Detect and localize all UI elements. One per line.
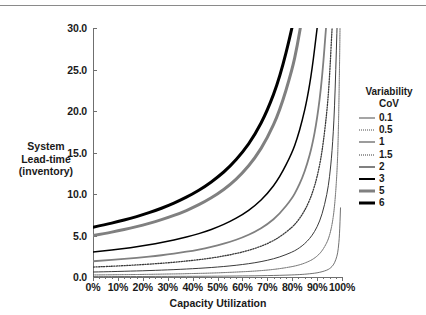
legend-item-cov-5[interactable]: 5	[359, 185, 425, 197]
legend-swatch-icon	[359, 150, 375, 160]
legend-label: 3	[379, 174, 384, 184]
legend-item-cov-0-5[interactable]: 0.5	[359, 124, 425, 136]
x-tick-mark-minor	[330, 277, 331, 279]
legend-swatch-icon	[359, 198, 375, 208]
legend-title-line-1: Variability	[359, 86, 419, 98]
x-tick-mark-minor	[180, 277, 181, 279]
curve-cov-1	[93, 28, 340, 272]
x-tick-mark-minor	[161, 277, 162, 279]
x-axis-tick-labels: 0%10%20%30%40%50%60%70%80%90%100%	[93, 281, 343, 297]
legend-title: Variability CoV	[359, 86, 419, 109]
x-tick-label: 20%	[133, 281, 153, 293]
y-tick-label: 15.0	[41, 148, 87, 158]
legend-item-cov-1[interactable]: 1	[359, 136, 425, 148]
x-tick-mark-minor	[174, 277, 175, 279]
curve-cov-2	[93, 28, 335, 261]
x-tick-mark-minor	[249, 277, 250, 279]
curves-svg	[93, 28, 342, 277]
x-tick-mark-minor	[255, 277, 256, 279]
x-tick-label: 0%	[86, 281, 101, 293]
x-tick-mark-minor	[305, 277, 306, 279]
y-tick-label: 30.0	[41, 23, 87, 33]
x-tick-label: 50%	[207, 281, 227, 293]
curve-cov-1-5	[93, 28, 337, 267]
x-tick-mark-minor	[211, 277, 212, 279]
plot-area	[93, 28, 342, 277]
legend-swatch-icon	[359, 125, 375, 135]
curve-cov-6	[93, 28, 312, 227]
x-tick-mark-minor	[280, 277, 281, 279]
legend-swatch-icon	[359, 113, 375, 123]
legend-items: 0.10.511.52356	[359, 112, 425, 210]
legend-swatch-icon	[359, 137, 375, 147]
x-tick-mark-minor	[323, 277, 324, 279]
legend-swatch-icon	[359, 186, 375, 196]
legend-swatch-icon	[359, 174, 375, 184]
x-tick-mark-minor	[205, 277, 206, 279]
legend-label: 0.5	[379, 125, 392, 135]
x-tick-mark-minor	[105, 277, 106, 279]
legend-item-cov-1-5[interactable]: 1.5	[359, 149, 425, 161]
x-tick-mark-minor	[274, 277, 275, 279]
x-tick-mark-minor	[155, 277, 156, 279]
x-tick-mark-minor	[261, 277, 262, 279]
legend-label: 2	[379, 162, 384, 172]
y-tick-label: 5.0	[41, 231, 87, 241]
y-tick-label: 0.0	[41, 272, 87, 282]
x-tick-mark-minor	[149, 277, 150, 279]
x-tick-label: 80%	[282, 281, 302, 293]
legend-label: 5	[379, 186, 384, 196]
x-tick-mark-minor	[137, 277, 138, 279]
x-tick-label: 70%	[257, 281, 277, 293]
x-tick-mark-minor	[224, 277, 225, 279]
legend-swatch-icon	[359, 162, 375, 172]
x-tick-mark-minor	[311, 277, 312, 279]
x-tick-mark-minor	[186, 277, 187, 279]
x-tick-label: 10%	[108, 281, 128, 293]
legend-label: 1	[379, 137, 384, 147]
legend-label: 1.5	[379, 150, 392, 160]
legend-label: 6	[379, 198, 384, 208]
x-tick-label: 40%	[182, 281, 202, 293]
legend-label: 0.1	[379, 113, 392, 123]
header-divider	[0, 5, 426, 6]
x-tick-mark-minor	[336, 277, 337, 279]
x-tick-label: 60%	[232, 281, 252, 293]
legend-item-cov-0-1[interactable]: 0.1	[359, 112, 425, 124]
x-tick-mark-minor	[298, 277, 299, 279]
x-tick-label: 90%	[307, 281, 327, 293]
y-tick-label: 25.0	[41, 65, 87, 75]
legend-item-cov-6[interactable]: 6	[359, 197, 425, 209]
legend: Variability CoV 0.10.511.52356	[359, 86, 425, 210]
x-tick-mark-minor	[230, 277, 231, 279]
legend-item-cov-2[interactable]: 2	[359, 161, 425, 173]
x-tick-mark-minor	[99, 277, 100, 279]
x-tick-mark-minor	[130, 277, 131, 279]
x-tick-label: 100%	[329, 281, 355, 293]
legend-title-line-2: CoV	[359, 98, 419, 110]
x-tick-mark-minor	[286, 277, 287, 279]
chart-root: System Lead-time (inventory) 0.05.010.01…	[0, 0, 426, 315]
y-tick-label: 20.0	[41, 106, 87, 116]
curve-cov-0-5	[93, 28, 341, 275]
x-tick-mark-minor	[124, 277, 125, 279]
x-tick-label: 30%	[157, 281, 177, 293]
x-tick-mark-minor	[112, 277, 113, 279]
legend-item-cov-3[interactable]: 3	[359, 173, 425, 185]
x-tick-mark-minor	[236, 277, 237, 279]
x-tick-mark-minor	[199, 277, 200, 279]
y-tick-label: 10.0	[41, 189, 87, 199]
x-axis-title: Capacity Utilization	[93, 297, 343, 309]
y-axis-tick-labels: 0.05.010.015.020.025.030.0	[37, 28, 87, 277]
